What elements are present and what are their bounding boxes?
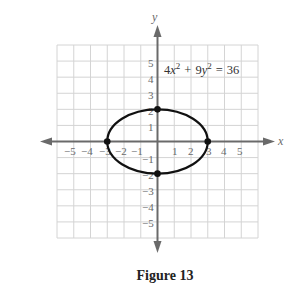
y-tick-labels: 1 2 3 4 5 −1 −2 −3 −4 −5	[142, 57, 154, 229]
point-0-neg2	[154, 170, 161, 177]
x-tick-label: 1	[172, 145, 178, 157]
x-axis-right-arrow-icon	[263, 138, 275, 146]
x-tick-label: 4	[221, 145, 227, 157]
x-tick-label: 2	[188, 145, 194, 157]
point-3-0	[204, 138, 211, 145]
y-tick-label: −3	[142, 185, 154, 197]
y-tick-label: 2	[148, 105, 154, 117]
y-tick-label: −5	[142, 217, 154, 229]
x-axis-left-arrow-icon	[40, 138, 52, 146]
x-tick-label: −1	[131, 145, 143, 157]
y-axis-label: y	[151, 10, 158, 24]
x-tick-label: −4	[81, 145, 93, 157]
y-tick-label: 5	[148, 57, 154, 69]
y-tick-label: −1	[142, 153, 154, 165]
equation-label: 4x2+9y2=36	[164, 61, 239, 77]
y-tick-label: 4	[148, 73, 154, 85]
point-neg3-0	[104, 138, 111, 145]
y-axis-up-arrow-icon	[154, 25, 162, 37]
y-tick-label: 1	[148, 121, 154, 133]
y-tick-label: −2	[142, 169, 154, 181]
y-tick-label: −4	[142, 201, 154, 213]
point-0-2	[154, 106, 161, 113]
x-axis-label: x	[277, 134, 284, 148]
x-tick-label: −2	[115, 145, 127, 157]
y-tick-label: 3	[148, 89, 154, 101]
x-tick-label: −5	[64, 145, 76, 157]
x-tick-label: 5	[237, 145, 243, 157]
ellipse-graph: x y −5 −4 −3 −2 −1 1 2 3 4 5 1 2 3 4 5 −…	[0, 0, 286, 291]
figure-caption: Figure 13	[0, 268, 286, 284]
y-axis-down-arrow-icon	[154, 241, 162, 253]
